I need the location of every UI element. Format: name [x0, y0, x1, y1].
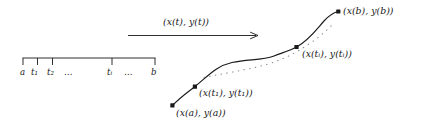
- point-marker-ti: [294, 45, 298, 49]
- parametric-curve-figure: a t₁ t₂ … tᵢ … b (x(t), y(t)) (x(b), y(b…: [0, 0, 421, 127]
- tick-label-ellipsis-right: …: [124, 68, 133, 77]
- point-marker-start: [170, 103, 174, 107]
- tick-label-a: a: [20, 68, 25, 77]
- point-marker-t1: [193, 85, 197, 89]
- curve-label-t1: (x(t₁), y(t₁)): [199, 88, 253, 97]
- curve-label-end: (x(b), y(b)): [343, 6, 394, 15]
- tick-label-t2: t₂: [47, 68, 54, 77]
- interval-bracket: [23, 58, 156, 65]
- tick-label-t1: t₁: [31, 68, 38, 77]
- mapping-arrow: [128, 32, 258, 38]
- tick-label-ellipsis-left: …: [64, 68, 73, 77]
- curve-label-start: (x(a), y(a)): [176, 108, 226, 117]
- curve-label-ti: (x(tᵢ), y(tᵢ)): [302, 49, 352, 58]
- point-marker-end: [336, 9, 340, 13]
- tick-label-b: b: [151, 68, 157, 77]
- tick-label-ti: tᵢ: [107, 68, 112, 77]
- mapping-arrow-label: (x(t), y(t)): [163, 17, 209, 26]
